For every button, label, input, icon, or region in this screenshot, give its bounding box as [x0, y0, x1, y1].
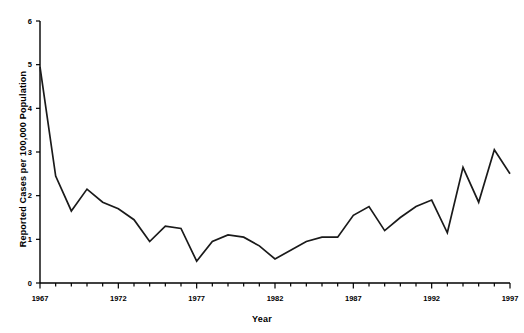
- y-axis-tick-label: 4: [28, 104, 33, 113]
- y-axis-tick-label: 1: [28, 235, 32, 244]
- data-series-line: [40, 67, 510, 261]
- y-axis-tick-label: 3: [28, 148, 32, 157]
- data-line: [40, 67, 510, 261]
- y-axis-title: Reported Cases per 100,000 Population: [18, 59, 28, 259]
- y-axis-tick-label: 6: [28, 17, 32, 26]
- x-axis-tick-label: 1967: [32, 294, 49, 303]
- x-axis-tick-label: 1982: [267, 294, 284, 303]
- line-chart-plot: 0123456 1967197219771982198719921997: [0, 0, 524, 333]
- chart-figure: 0123456 1967197219771982198719921997 Rep…: [0, 0, 524, 333]
- x-axis-title: Year: [0, 314, 524, 324]
- y-axis-tick-label: 5: [28, 60, 32, 69]
- x-axis-tick-label: 1972: [110, 294, 127, 303]
- y-axis-tick-label: 0: [28, 279, 32, 288]
- x-axis-tick-label: 1997: [502, 294, 519, 303]
- y-axis-tick-label: 2: [28, 191, 32, 200]
- x-axis-tick-label: 1977: [188, 294, 205, 303]
- x-axis-tick-label: 1987: [345, 294, 362, 303]
- y-axis: 0123456: [28, 17, 40, 288]
- x-axis-tick-label: 1992: [423, 294, 440, 303]
- x-axis: 1967197219771982198719921997: [32, 283, 519, 303]
